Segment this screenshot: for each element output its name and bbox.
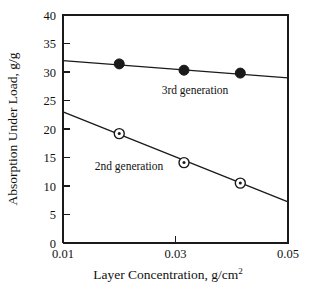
y-tick-labels: 40 35 30 25 20 15 10 5 0 <box>44 9 57 251</box>
y-axis-ticks <box>63 15 70 243</box>
data-point-center <box>118 132 121 135</box>
y-tick-label-40: 40 <box>44 9 57 23</box>
data-point <box>179 65 189 75</box>
chart-container: 40 35 30 25 20 15 10 5 0 0.01 0.03 0.05 … <box>0 0 312 292</box>
data-point <box>235 68 245 78</box>
y-tick-label-25: 25 <box>44 94 57 108</box>
x-axis-title-main: Layer Concentration, g/cm <box>93 267 239 282</box>
y-tick-label-35: 35 <box>44 37 57 51</box>
x-tick-label-0.03: 0.03 <box>165 247 187 261</box>
chart-plot-area: 40 35 30 25 20 15 10 5 0 0.01 0.03 0.05 … <box>0 0 312 292</box>
series-line-3rd-generation <box>63 61 288 78</box>
y-tick-label-30: 30 <box>44 66 57 80</box>
series-annotation-3rd-generation: 3rd generation <box>162 84 229 97</box>
x-axis-title: Layer Concentration, g/cm2 <box>93 266 243 282</box>
plot-frame <box>63 15 288 243</box>
y-tick-label-10: 10 <box>44 180 57 194</box>
x-tick-label-0.01: 0.01 <box>52 247 74 261</box>
y-axis-title: Absorption Under Load, g/g <box>5 52 20 205</box>
data-point <box>114 59 124 69</box>
y-tick-label-5: 5 <box>50 208 56 222</box>
x-axis-title-superscript: 2 <box>238 266 243 276</box>
y-tick-label-15: 15 <box>44 151 57 165</box>
x-tick-labels: 0.01 0.03 0.05 <box>52 247 299 261</box>
series-annotation-2nd-generation: 2nd generation <box>95 160 164 173</box>
data-point-center <box>183 161 186 164</box>
y-tick-label-20: 20 <box>44 123 57 137</box>
data-point-center <box>239 182 242 185</box>
series-markers-3rd-generation <box>114 59 245 78</box>
series-line-2nd-generation <box>63 112 288 202</box>
x-tick-label-0.05: 0.05 <box>277 247 299 261</box>
